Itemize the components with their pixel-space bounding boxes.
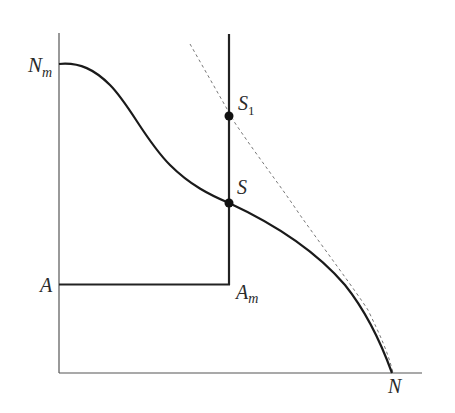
label-s1: S1 [238, 92, 255, 118]
point-s1 [225, 112, 234, 121]
frontier-curve [59, 64, 392, 373]
label-a: A [38, 274, 53, 296]
label-s: S [237, 176, 247, 198]
point-s [225, 199, 234, 208]
dashed-frontier-curve [190, 44, 393, 373]
label-n: N [387, 375, 403, 397]
ppf-diagram: Nm S1 S A Am N [0, 0, 455, 413]
label-n-m: Nm [27, 53, 52, 80]
label-a-m: Am [234, 281, 258, 306]
